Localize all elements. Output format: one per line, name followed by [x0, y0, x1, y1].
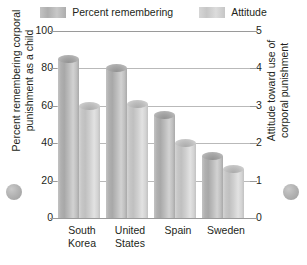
left-axis-title: Percent remembering corporal punishment … [10, 6, 35, 156]
right-axis-marker-dot-icon [283, 184, 299, 200]
bar-cap-icon [175, 139, 196, 147]
bar-cap-icon [58, 55, 79, 63]
category-axis: South Korea United States Spain Sweden [57, 224, 250, 264]
legend-label-attitude: Attitude [231, 7, 267, 18]
tick-stub-left-20 [50, 181, 57, 182]
chart-legend: Percent remembering Attitude [0, 0, 307, 24]
plot-area [57, 31, 250, 218]
axis-baseline [57, 218, 250, 219]
bar-cap-icon [127, 100, 148, 108]
bar-body [127, 104, 148, 218]
tick-stub-left-80 [50, 68, 57, 69]
bar-cap-icon [223, 165, 244, 173]
bar-sweden-percent[interactable] [202, 156, 223, 218]
bar-cap-icon [154, 111, 175, 119]
tick-stub-right-0 [250, 218, 257, 219]
bar-spain-attitude[interactable] [175, 143, 196, 218]
bar-body [175, 143, 196, 218]
tick-stub-right-5 [250, 31, 257, 32]
bar-group-united-states [106, 31, 154, 218]
bar-group-spain [154, 31, 202, 218]
bar-cap-icon [202, 152, 223, 160]
legend-swatch-percent-icon [40, 7, 66, 18]
bar-south-korea-percent[interactable] [58, 59, 79, 218]
tick-stub-left-40 [50, 143, 57, 144]
bar-united-states-percent[interactable] [106, 68, 127, 218]
tick-stub-left-0 [50, 218, 57, 219]
bar-body [202, 156, 223, 218]
bar-body [79, 106, 100, 218]
tick-stub-left-60 [50, 106, 57, 107]
bar-group-south-korea [58, 31, 106, 218]
tick-stub-left-100 [50, 31, 57, 32]
bar-south-korea-attitude[interactable] [79, 106, 100, 218]
legend-swatch-attitude-icon [199, 7, 225, 18]
bar-spain-percent[interactable] [154, 115, 175, 218]
right-axis-title: Attitude toward use of corporal punishme… [265, 26, 290, 156]
bar-body [223, 169, 244, 218]
bar-body [106, 68, 127, 218]
bar-body [154, 115, 175, 218]
bar-sweden-attitude[interactable] [223, 169, 244, 218]
bar-cap-icon [79, 102, 100, 110]
bar-cap-icon [106, 64, 127, 72]
tick-stub-right-1 [250, 181, 257, 182]
legend-entry-attitude: Attitude [199, 7, 267, 18]
bar-group-sweden [202, 31, 250, 218]
tick-stub-right-4 [250, 68, 257, 69]
category-label-sweden: Sweden [198, 224, 254, 237]
bar-united-states-attitude[interactable] [127, 104, 148, 218]
bar-body [58, 59, 79, 218]
tick-stub-right-3 [250, 106, 257, 107]
left-axis-marker-dot-icon [6, 184, 22, 200]
tick-stub-right-2 [250, 143, 257, 144]
legend-entry-percent: Percent remembering [40, 7, 173, 18]
legend-label-percent: Percent remembering [72, 7, 173, 18]
